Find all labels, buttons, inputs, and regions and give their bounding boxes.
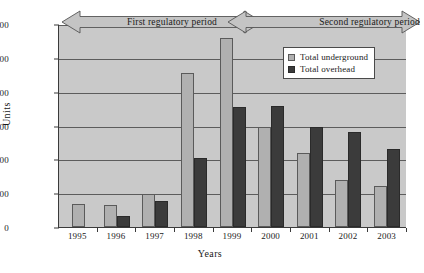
legend-item: Total overhead xyxy=(288,63,368,75)
x-axis-tick-label: 1999 xyxy=(212,231,252,241)
y-axis-tick-label: 1500 xyxy=(0,122,9,132)
x-axis-tick-label: 2001 xyxy=(289,231,329,241)
x-axis-tick-label: 1998 xyxy=(173,231,213,241)
legend-label-overhead: Total overhead xyxy=(300,64,355,74)
x-axis-tick-label: 1997 xyxy=(135,231,175,241)
bar-2003-underground xyxy=(374,186,387,227)
x-axis-tick-label: 1996 xyxy=(96,231,136,241)
legend-swatch-overhead-icon xyxy=(288,66,295,73)
bar-2002-underground xyxy=(335,180,348,227)
x-axis-tick-label: 2000 xyxy=(251,231,291,241)
bar-2001-underground xyxy=(297,153,310,227)
bar-group-1995 xyxy=(59,25,98,227)
legend-swatch-underground-icon xyxy=(288,54,295,61)
bar-1996-underground xyxy=(104,205,117,227)
y-axis-tick-label: 500 xyxy=(0,189,9,199)
bar-2000-overhead xyxy=(271,106,284,227)
bar-2001-overhead xyxy=(310,127,323,227)
bar-1995-underground xyxy=(72,204,85,227)
legend: Total underground Total overhead xyxy=(283,47,375,79)
bar-1997-underground xyxy=(142,194,155,227)
annotation-banner-second-period: Second regulatory period xyxy=(228,9,420,35)
annotation-banner-second-period-label: Second regulatory period xyxy=(228,9,424,35)
y-axis-tick-label: 2500 xyxy=(0,54,9,64)
bar-2000-underground xyxy=(258,127,271,227)
bar-1999-overhead xyxy=(233,107,246,227)
bar-2003-overhead xyxy=(387,149,400,227)
bar-group-1996 xyxy=(98,25,137,227)
y-axis-tick-label: 0 xyxy=(4,223,9,233)
x-axis-tick-mark xyxy=(406,228,407,232)
legend-label-underground: Total underground xyxy=(300,52,368,62)
bar-1999-underground xyxy=(220,38,233,227)
bar-1997-overhead xyxy=(155,201,168,227)
bar-1998-overhead xyxy=(194,158,207,227)
bar-group-1998 xyxy=(175,25,214,227)
bar-1996-overhead xyxy=(117,216,130,227)
bar-1998-underground xyxy=(181,73,194,227)
bar-2002-overhead xyxy=(348,132,361,227)
bar-group-1997 xyxy=(136,25,175,227)
bar-group-1999 xyxy=(213,25,252,227)
y-axis-tick-label: 3000 xyxy=(0,20,9,30)
y-axis-tick-label: 1000 xyxy=(0,155,9,165)
y-axis-tick-label: 2000 xyxy=(0,88,9,98)
x-axis-title: Years xyxy=(0,248,420,259)
x-axis-tick-label: 2002 xyxy=(328,231,368,241)
legend-item: Total underground xyxy=(288,51,368,63)
x-axis-tick-label: 2003 xyxy=(367,231,407,241)
x-axis-tick-label: 1995 xyxy=(57,231,97,241)
